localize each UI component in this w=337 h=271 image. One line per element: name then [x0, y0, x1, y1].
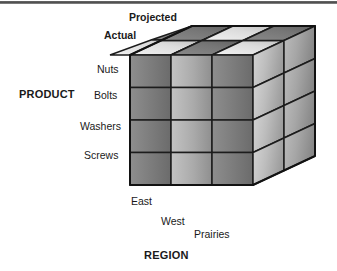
product-tick-bolts: Bolts: [94, 90, 117, 101]
olap-cube-figure: Projected Actual PRODUCT Nuts Bolts Wash…: [0, 0, 337, 271]
axis-label-product: PRODUCT: [19, 89, 75, 100]
front-nuts-prairies: [212, 55, 253, 88]
measure-label-projected: Projected: [129, 12, 177, 23]
front-screws-west: [171, 153, 212, 186]
front-washers-prairies: [212, 120, 253, 153]
region-tick-west: West: [161, 216, 185, 227]
front-screws-east: [130, 153, 171, 186]
front-nuts-west: [171, 55, 212, 88]
front-bolts-west: [171, 88, 212, 121]
front-washers-east: [130, 120, 171, 153]
front-screws-prairies: [212, 153, 253, 186]
front-nuts-east: [130, 55, 171, 88]
measure-label-actual: Actual: [104, 30, 136, 41]
cube-body: [130, 26, 315, 185]
cube-front-face: [130, 55, 253, 185]
front-bolts-prairies: [212, 88, 253, 121]
cube-graphic: [0, 0, 337, 271]
product-tick-nuts: Nuts: [97, 64, 119, 75]
product-tick-washers: Washers: [80, 121, 121, 132]
region-tick-east: East: [131, 196, 152, 207]
front-bolts-east: [130, 88, 171, 121]
product-tick-screws: Screws: [84, 150, 118, 161]
front-washers-west: [171, 120, 212, 153]
axis-label-region: REGION: [144, 250, 189, 261]
region-tick-prairies: Prairies: [194, 229, 230, 240]
